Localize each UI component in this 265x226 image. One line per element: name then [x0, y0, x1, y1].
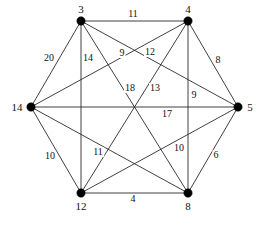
edge-weight-label: 12 [144, 47, 156, 57]
weighted-graph-figure: 112014912818139171061011434581214 [0, 0, 265, 226]
graph-vertex-8[interactable] [184, 189, 192, 197]
edge-weight-label: 13 [149, 83, 161, 93]
edge-weight-label: 11 [92, 147, 104, 157]
vertex-label-5: 5 [247, 102, 253, 113]
graph-edge [31, 21, 81, 107]
edge-weight-label: 10 [44, 151, 56, 161]
edge-weight-label: 9 [119, 48, 126, 58]
edges-group [31, 21, 238, 193]
graph-vertex-3[interactable] [77, 17, 85, 25]
edge-weight-label: 9 [191, 90, 198, 100]
graph-vertex-5[interactable] [234, 103, 242, 111]
graph-vertex-14[interactable] [27, 103, 35, 111]
vertex-label-14: 14 [12, 102, 23, 113]
edge-weight-label: 17 [161, 109, 173, 119]
edge-weight-label: 10 [173, 143, 185, 153]
graph-vertex-4[interactable] [184, 17, 192, 25]
vertex-label-8: 8 [185, 201, 191, 212]
graph-edge [31, 21, 188, 107]
vertex-label-4: 4 [185, 4, 191, 15]
edge-weight-label: 11 [127, 9, 139, 19]
vertex-label-3: 3 [78, 4, 84, 15]
vertex-label-12: 12 [76, 201, 87, 212]
edge-weight-label: 20 [43, 53, 55, 63]
edge-weight-label: 4 [130, 194, 137, 204]
edge-weight-label: 8 [215, 55, 222, 65]
edge-weight-label: 14 [82, 53, 94, 63]
edge-weight-label: 18 [124, 83, 136, 93]
edge-weight-label: 6 [213, 150, 220, 160]
graph-vertex-12[interactable] [77, 189, 85, 197]
graph-edge [31, 107, 81, 193]
